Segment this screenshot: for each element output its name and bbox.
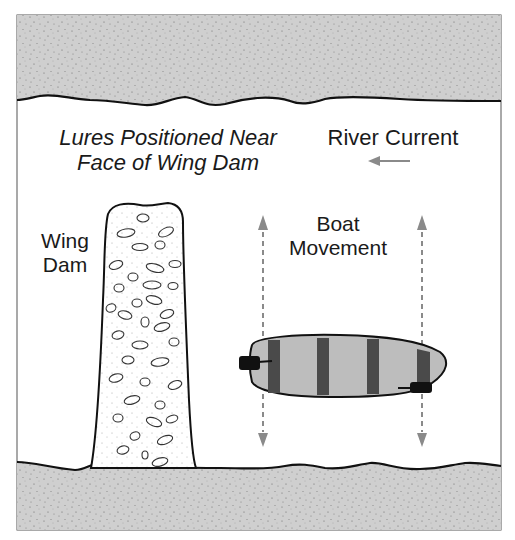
boat: [239, 335, 446, 397]
wing-dam: [91, 203, 196, 468]
boat-movement-label: Boat Movement: [283, 212, 393, 259]
wing-dam-label: Wing Dam: [40, 229, 90, 276]
lures-positioned-label: Lures Positioned Near Face of Wing Dam: [48, 126, 288, 175]
trolling-motor-icon: [410, 382, 432, 393]
river-current-label: River Current: [318, 126, 468, 151]
wing-dam-label-line2: Dam: [40, 253, 90, 277]
boat-movement-label-line1: Boat: [283, 212, 393, 236]
outboard-motor-icon: [239, 356, 260, 370]
lures-label-line1: Lures Positioned Near: [48, 126, 288, 151]
wing-dam-label-line1: Wing: [40, 229, 90, 253]
lures-label-line2: Face of Wing Dam: [48, 151, 288, 176]
top-riverbank: [17, 15, 501, 105]
boat-movement-label-line2: Movement: [283, 236, 393, 260]
bottom-riverbank: [17, 462, 501, 530]
